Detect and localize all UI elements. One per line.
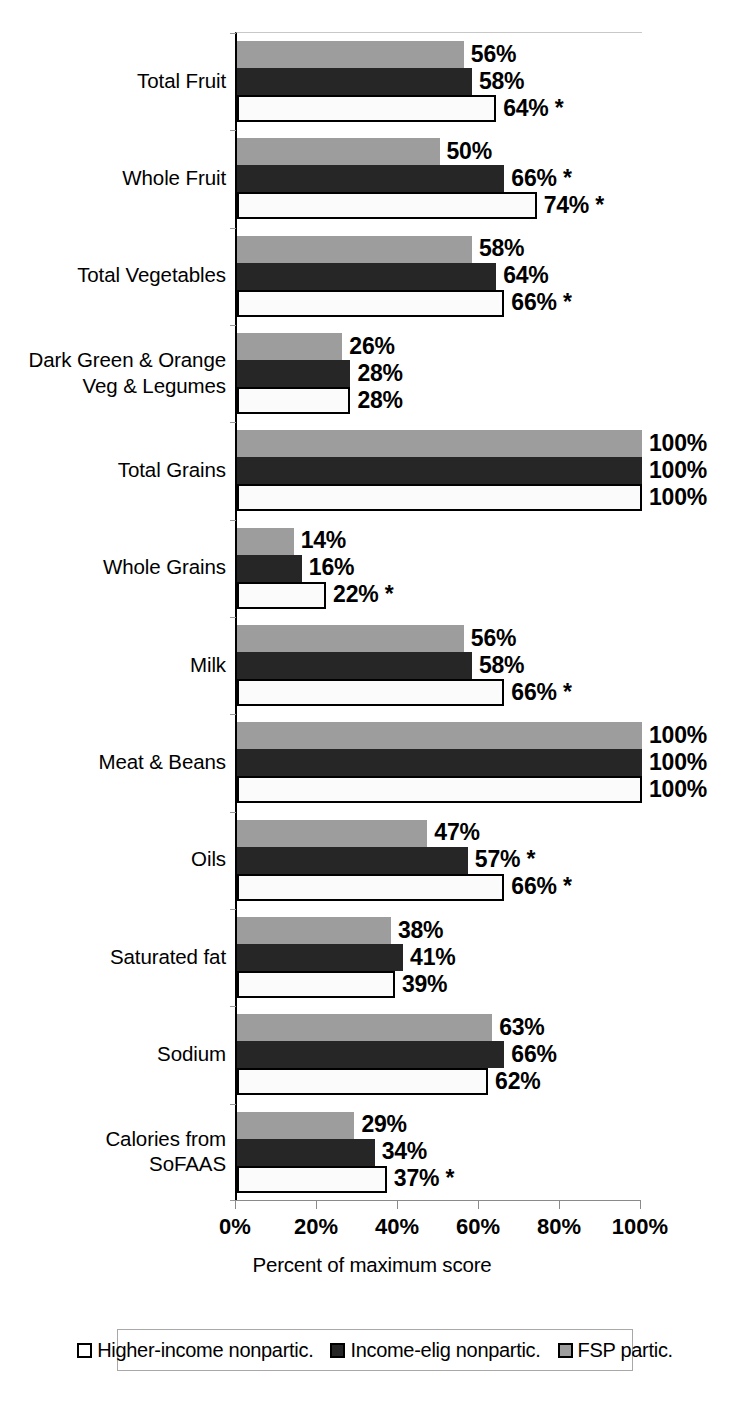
- bar-value-label: 56%: [464, 627, 516, 650]
- bar-value-label: 100%: [642, 486, 707, 509]
- bar-group: 29%34%37% *: [237, 1104, 642, 1201]
- legend-item: FSP partic.: [558, 1339, 673, 1362]
- bar-black: [237, 555, 302, 582]
- bar-group: 100%100%100%: [237, 714, 642, 811]
- bar-value-label: 62%: [488, 1070, 540, 1093]
- bar-value-label: 37% *: [387, 1167, 454, 1190]
- bar-row: 100%: [237, 430, 642, 457]
- bar-value-label: 58%: [472, 654, 524, 677]
- category-label-line: Meat & Beans: [4, 749, 226, 775]
- bar-row: 56%: [237, 41, 642, 68]
- x-axis: 0%20%40%60%80%100%: [235, 1200, 640, 1201]
- category-label-line: Oils: [4, 846, 226, 872]
- bar-gray: [237, 722, 642, 749]
- category-label-line: Sodium: [4, 1041, 226, 1067]
- bar-white: [237, 679, 504, 706]
- bar-white: [237, 290, 504, 317]
- bar-row: 63%: [237, 1014, 642, 1041]
- bar-white: [237, 582, 326, 609]
- legend-item: Income-elig nonpartic.: [330, 1339, 540, 1362]
- bar-value-label: 29%: [354, 1113, 406, 1136]
- y-axis-tick: [230, 130, 236, 131]
- bar-gray: [237, 625, 464, 652]
- bar-value-label: 47%: [427, 821, 479, 844]
- bar-value-label: 100%: [642, 432, 707, 455]
- x-axis-tick: [235, 1200, 236, 1209]
- bar-row: 37% *: [237, 1166, 642, 1193]
- bar-value-label: 50%: [440, 140, 492, 163]
- bar-value-label: 57% *: [468, 848, 535, 871]
- bar-gray: [237, 333, 342, 360]
- y-axis-tick: [230, 228, 236, 229]
- bar-row: 100%: [237, 776, 642, 803]
- legend-swatch-gray: [558, 1343, 573, 1358]
- category-label-line: Dark Green & Orange: [4, 347, 226, 373]
- bar-value-label: 100%: [642, 459, 707, 482]
- category-label-line: Total Vegetables: [4, 262, 226, 288]
- bar-row: 100%: [237, 722, 642, 749]
- bar-group: 38%41%39%: [237, 909, 642, 1006]
- category-label: Whole Fruit: [4, 165, 226, 191]
- bar-row: 74% *: [237, 192, 642, 219]
- bar-value-label: 56%: [464, 43, 516, 66]
- bar-group: 14%16%22% *: [237, 520, 642, 617]
- bar-white: [237, 95, 496, 122]
- x-axis-tick-label: 100%: [612, 1214, 668, 1240]
- y-axis-tick: [230, 422, 236, 423]
- bar-gray: [237, 528, 294, 555]
- bar-row: 100%: [237, 484, 642, 511]
- bar-black: [237, 165, 504, 192]
- chart-legend: Higher-income nonpartic.Income-elig nonp…: [117, 1329, 633, 1371]
- bar-group: 100%100%100%: [237, 422, 642, 519]
- bar-white: [237, 192, 537, 219]
- category-label: Calories fromSoFAAS: [4, 1126, 226, 1178]
- y-axis-tick: [230, 33, 236, 34]
- bar-row: 34%: [237, 1139, 642, 1166]
- bar-white: [237, 874, 504, 901]
- bar-row: 58%: [237, 236, 642, 263]
- bar-value-label: 26%: [342, 335, 394, 358]
- bar-row: 58%: [237, 652, 642, 679]
- bar-row: 100%: [237, 749, 642, 776]
- bar-white: [237, 1068, 488, 1095]
- category-label-line: Total Fruit: [4, 68, 226, 94]
- bar-row: 47%: [237, 820, 642, 847]
- bar-value-label: 39%: [395, 973, 447, 996]
- x-axis-tick: [478, 1200, 479, 1209]
- x-axis-tick-label: 80%: [537, 1214, 581, 1240]
- legend-swatch-white: [77, 1343, 92, 1358]
- bar-group: 56%58%66% *: [237, 617, 642, 714]
- bar-black: [237, 944, 403, 971]
- x-axis-tick: [316, 1200, 317, 1209]
- bar-value-label: 100%: [642, 724, 707, 747]
- bar-chart-figure: Total FruitWhole FruitTotal VegetablesDa…: [0, 0, 744, 1404]
- bar-value-label: 66% *: [504, 291, 571, 314]
- bar-row: 57% *: [237, 847, 642, 874]
- category-label: Total Vegetables: [4, 262, 226, 288]
- y-axis-tick: [230, 617, 236, 618]
- bar-value-label: 66% *: [504, 875, 571, 898]
- bar-value-label: 28%: [350, 389, 402, 412]
- bar-value-label: 74% *: [537, 194, 604, 217]
- bar-black: [237, 847, 468, 874]
- category-label: Meat & Beans: [4, 749, 226, 775]
- bar-row: 26%: [237, 333, 642, 360]
- bar-row: 16%: [237, 555, 642, 582]
- bar-row: 28%: [237, 387, 642, 414]
- bar-row: 41%: [237, 944, 642, 971]
- y-axis-tick: [230, 325, 236, 326]
- category-label-line: Milk: [4, 652, 226, 678]
- bar-value-label: 38%: [391, 919, 443, 942]
- bar-value-label: 64% *: [496, 97, 563, 120]
- bar-row: 22% *: [237, 582, 642, 609]
- bar-row: 66% *: [237, 290, 642, 317]
- bar-gray: [237, 430, 642, 457]
- bar-value-label: 16%: [302, 556, 354, 579]
- bar-row: 50%: [237, 138, 642, 165]
- bar-black: [237, 1041, 504, 1068]
- bar-row: 66% *: [237, 874, 642, 901]
- bar-row: 62%: [237, 1068, 642, 1095]
- x-axis-tick: [397, 1200, 398, 1209]
- bar-row: 29%: [237, 1112, 642, 1139]
- bar-group: 50%66% *74% *: [237, 130, 642, 227]
